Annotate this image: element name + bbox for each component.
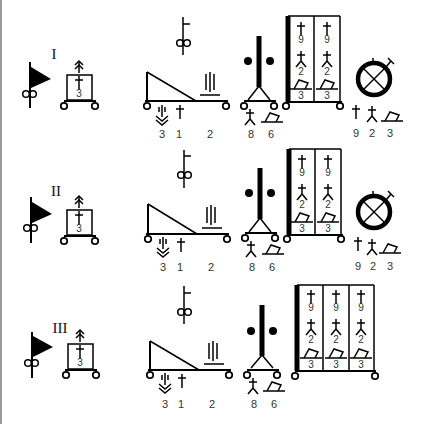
wedge-icon [263, 382, 285, 391]
svg-text:9: 9 [325, 167, 331, 178]
wedge-icon [381, 112, 403, 121]
tree-icon [76, 330, 84, 342]
cross-icon [354, 237, 362, 251]
svg-text:2: 2 [333, 334, 339, 345]
svg-text:3: 3 [333, 359, 339, 370]
row-3: III 3 3 1 2 [25, 285, 378, 410]
person-icon [245, 109, 255, 125]
svg-text:3: 3 [299, 223, 305, 234]
sled-diagram: 3 1 2 [145, 150, 230, 273]
svg-text:9: 9 [299, 167, 305, 178]
tower-label: 6 [271, 398, 277, 410]
cross-icon [176, 105, 184, 119]
unit-box-label: 3 [77, 357, 83, 368]
sled-label: 2 [209, 398, 215, 410]
sled-diagram: 3 1 2 [147, 286, 232, 410]
wedge-icon [262, 245, 284, 254]
person-icon [367, 106, 377, 122]
svg-text:2: 2 [308, 334, 314, 345]
tower-label: 8 [248, 128, 254, 140]
dial-diagram: 9 2 3 [354, 191, 401, 272]
person-icon [248, 378, 258, 394]
unit-box-label: 3 [76, 223, 82, 234]
row-1: I 3 3 1 2 [23, 16, 403, 140]
tower-label: 8 [251, 398, 257, 410]
row-roman-numeral: III [53, 320, 68, 336]
cabinet-column: 9 2 3 [325, 290, 347, 370]
cross-icon [178, 374, 186, 388]
svg-text:2: 2 [298, 66, 304, 77]
flag-icon [25, 332, 53, 378]
tower-label: 8 [249, 261, 255, 273]
sled-label: 2 [207, 128, 213, 140]
sled-label: 1 [176, 128, 182, 140]
cabinet-diagram: 9 2 3 9 2 3 [283, 16, 343, 109]
svg-text:9: 9 [355, 260, 361, 272]
svg-text:3: 3 [387, 260, 393, 272]
row-roman-numeral: I [52, 46, 57, 62]
svg-text:9: 9 [353, 127, 359, 139]
svg-text:2: 2 [370, 260, 376, 272]
cabinet-column: 9 2 3 [290, 22, 312, 101]
svg-text:9: 9 [324, 34, 330, 45]
unit-box: 3 [63, 330, 99, 378]
cabinet-column: 9 2 3 [300, 290, 322, 370]
sled-label: 3 [162, 398, 168, 410]
svg-text:2: 2 [325, 199, 331, 210]
svg-text:3: 3 [325, 223, 331, 234]
svg-text:9: 9 [358, 302, 364, 313]
svg-text:3: 3 [387, 127, 393, 139]
row-2: II 3 3 1 2 [24, 149, 401, 273]
cross-icon [177, 238, 185, 252]
flag-icon [24, 197, 52, 243]
cabinet-column: 9 2 3 [316, 22, 338, 101]
flag-icon [23, 62, 51, 108]
unit-box: 3 [61, 196, 98, 244]
person-icon [246, 241, 256, 257]
antenna-icon [206, 72, 214, 92]
sled-label: 1 [178, 398, 184, 410]
cabinet-column: 9 2 3 [291, 155, 313, 234]
svg-text:2: 2 [299, 199, 305, 210]
svg-text:3: 3 [308, 359, 314, 370]
cabinet-column: 9 2 3 [317, 155, 339, 234]
split-glyph-icon [159, 373, 171, 393]
sled-label: 2 [208, 261, 214, 273]
svg-text:2: 2 [324, 66, 330, 77]
svg-text:3: 3 [358, 359, 364, 370]
unit-box-label: 3 [76, 88, 82, 99]
sled-diagram: 3 1 2 [144, 17, 229, 140]
sled-label: 3 [160, 261, 166, 273]
antenna-icon [209, 341, 217, 361]
tower-label: 6 [269, 261, 275, 273]
tower-diagram: 8 6 [242, 168, 284, 273]
person-icon [367, 239, 377, 255]
svg-text:9: 9 [308, 302, 314, 313]
tower-diagram: 8 6 [244, 305, 285, 410]
tower-label: 6 [268, 128, 274, 140]
wedge-icon [379, 244, 401, 253]
antenna-icon [207, 205, 215, 225]
row-roman-numeral: II [51, 183, 61, 199]
svg-text:3: 3 [324, 90, 330, 101]
cabinet-column: 9 2 3 [350, 290, 372, 370]
svg-text:2: 2 [369, 127, 375, 139]
svg-text:9: 9 [298, 34, 304, 45]
tower-diagram: 8 6 [241, 36, 283, 140]
svg-text:3: 3 [298, 90, 304, 101]
wedge-icon [261, 113, 283, 122]
cabinet-diagram: 9 2 3 9 2 3 9 2 3 [292, 285, 378, 379]
split-glyph-icon [157, 237, 169, 257]
dial-diagram: 9 2 3 [352, 58, 403, 139]
cabinet-diagram: 9 2 3 9 2 3 [284, 149, 344, 242]
tree-icon [75, 196, 83, 208]
svg-text:2: 2 [358, 334, 364, 345]
sled-label: 1 [177, 261, 183, 273]
tree-icon [75, 61, 83, 73]
svg-text:9: 9 [333, 302, 339, 313]
unit-box: 3 [61, 61, 98, 109]
sled-label: 3 [159, 128, 165, 140]
cross-icon [352, 105, 360, 119]
split-glyph-icon [156, 105, 168, 125]
